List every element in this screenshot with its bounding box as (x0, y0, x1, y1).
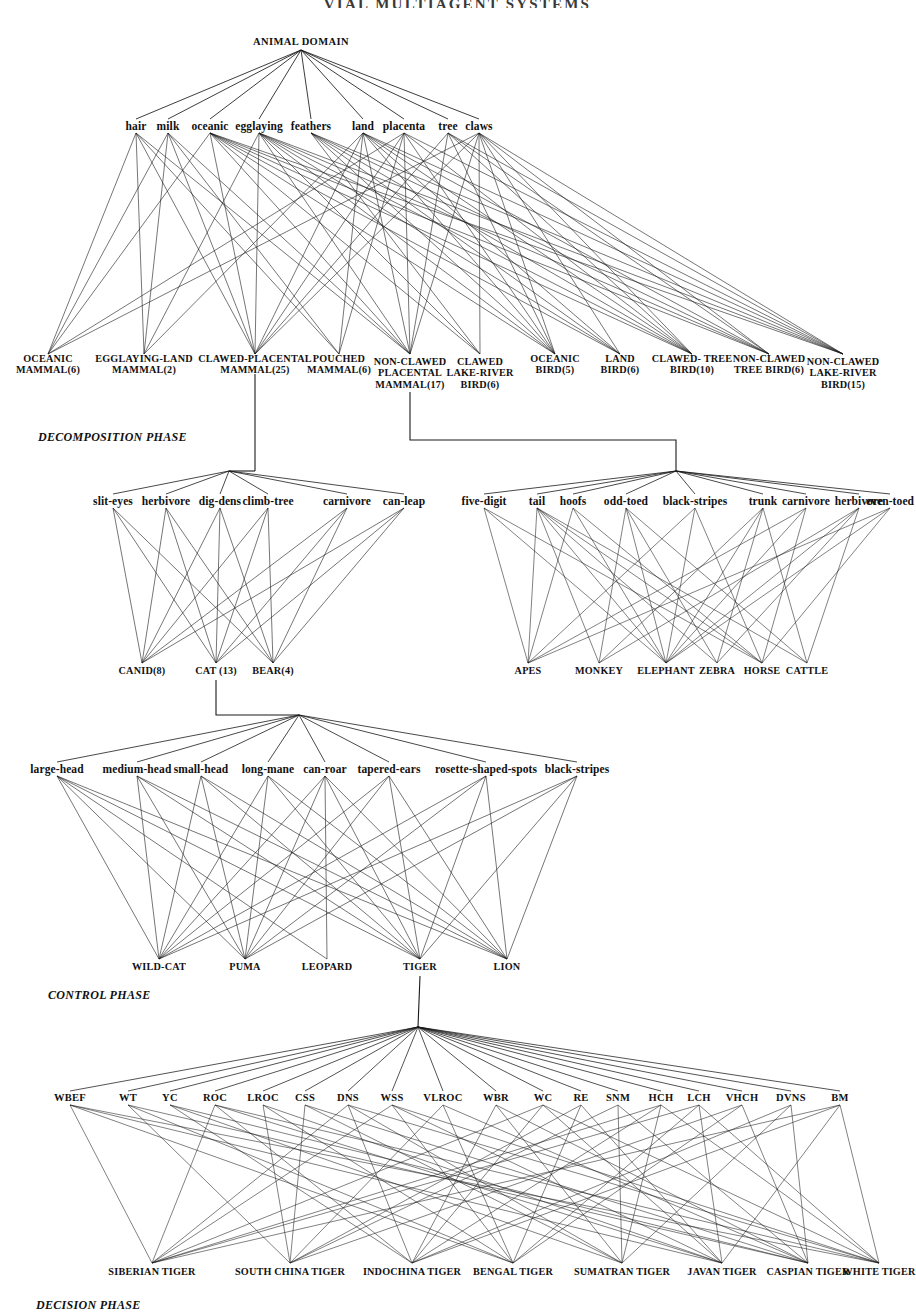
edge-hub3-small-head (201, 715, 299, 762)
phase-label-control: CONTROL PHASE (48, 988, 150, 1003)
feature-node-WT: WT (119, 1092, 137, 1104)
feature-node-hoofs: hoofs (560, 495, 587, 508)
class-node-TIGER: TIGER (403, 961, 437, 972)
edge-l5 (152, 1105, 215, 1263)
edge-l4 (507, 776, 577, 959)
edge-l2 (48, 133, 168, 354)
edge-hub2-black-stripes (676, 471, 695, 494)
edge-l4 (245, 776, 268, 959)
edge-hub3-tapered-ears (299, 715, 389, 762)
edge-l3-right (762, 508, 806, 663)
class-node-CATTLE: CATTLE (786, 665, 828, 676)
edge-l5 (742, 1105, 808, 1263)
edge-l2 (479, 133, 620, 354)
class-line: NON-CLAWED (733, 353, 806, 364)
class-node-NON-CLAWED: NON-CLAWEDTREE BIRD(6) (733, 353, 806, 376)
edge-l3-right (528, 508, 806, 663)
edge-l3-left (113, 508, 216, 663)
edge-hub4-SNM (418, 1027, 618, 1091)
edge-l3-right (484, 508, 666, 663)
feature-node-SNM: SNM (606, 1092, 630, 1104)
edge-l2 (259, 133, 769, 354)
feature-node-tree: tree (438, 120, 457, 133)
edge-root-feathers (301, 50, 311, 119)
class-node-NON-CLAWED: NON-CLAWEDPLACENTALMAMMAL(17) (374, 356, 447, 390)
edge-hub4-WSS (392, 1027, 418, 1091)
class-line: MAMMAL(6) (16, 364, 80, 375)
edge-l5 (128, 1105, 513, 1263)
edge-l5 (543, 1105, 879, 1263)
class-line: MAMMAL(2) (95, 364, 193, 375)
edge-l4 (57, 776, 245, 959)
edge-l5 (513, 1105, 699, 1263)
edge-l2 (363, 133, 620, 354)
edge-l3-left (273, 508, 404, 663)
feature-node-tapered-ears: tapered-ears (358, 763, 421, 776)
edge-l2 (363, 133, 843, 354)
edge-l4 (137, 776, 159, 959)
class-line: OCEANIC (16, 353, 80, 364)
edge-root-hair (136, 50, 301, 119)
feature-node-CSS: CSS (295, 1092, 315, 1104)
edge-l2 (255, 133, 448, 354)
feature-node-trunk: trunk (749, 495, 778, 508)
edge-hub2-odd-toed (626, 471, 676, 494)
edge-l3-right (537, 508, 717, 663)
edge-hub2-hoofs (573, 471, 676, 494)
edge-l3-right (484, 508, 528, 663)
class-node-BEAR(4): BEAR(4) (252, 665, 294, 676)
feature-node-feathers: feathers (291, 120, 331, 133)
edge-l3-right (573, 508, 666, 663)
edge-l4 (325, 776, 507, 959)
edge-l3-right (717, 508, 763, 663)
class-line: EGGLAYING-LAND (95, 353, 193, 364)
edge-l2 (210, 133, 255, 354)
class-node-CLAWED-PLACENTAL: CLAWED-PLACENTALMAMMAL(25) (198, 353, 311, 376)
edge-l2 (404, 133, 410, 354)
class-node-NON-CLAWED: NON-CLAWEDLAKE-RIVERBIRD(15) (807, 356, 880, 390)
edge-l4 (325, 776, 420, 959)
feature-node-five-digit: five-digit (461, 495, 506, 508)
class-line: MAMMAL(25) (198, 364, 311, 375)
edge-l5 (152, 1105, 543, 1263)
edge-l5 (70, 1105, 879, 1263)
edge-l4 (137, 776, 245, 959)
edge-hub2-five-digit (484, 471, 676, 494)
edge-l2 (259, 133, 692, 354)
edge-root-oceanic (210, 50, 301, 119)
edge-l3-right (626, 508, 807, 663)
feature-node-climb-tree: climb-tree (242, 495, 293, 508)
feature-node-dig-dens: dig-dens (199, 495, 241, 508)
class-node-CANID(8): CANID(8) (119, 665, 166, 676)
edge-l4 (325, 776, 327, 959)
edge-l4 (245, 776, 577, 959)
feature-node-even-toed: even-toed (866, 495, 914, 508)
edge-l2 (255, 133, 404, 354)
class-line: BIRD(6) (446, 379, 513, 390)
edge-l3-right (807, 508, 859, 663)
class-line: LAKE-RIVER (807, 367, 880, 378)
edge-l3-right (484, 508, 762, 663)
edge-l4 (389, 776, 420, 959)
class-node-HORSE: HORSE (744, 665, 781, 676)
class-node-CLAWED- TREE: CLAWED- TREEBIRD(10) (652, 353, 733, 376)
feature-node-hair: hair (126, 120, 147, 133)
edge-l2 (48, 133, 479, 354)
feature-node-LROC: LROC (247, 1092, 279, 1104)
edge-l5 (699, 1105, 722, 1263)
class-node-CLAWED: CLAWEDLAKE-RIVERBIRD(6) (446, 356, 513, 390)
root-node: ANIMAL DOMAIN (253, 36, 349, 48)
edge-root-milk (168, 50, 301, 119)
edge-l2 (448, 133, 843, 354)
class-node-BENGAL TIGER: BENGAL TIGER (473, 1266, 553, 1277)
edge-l2 (479, 133, 843, 354)
edge-l2 (48, 133, 404, 354)
edge-l2 (448, 133, 692, 354)
edge-root-placenta (301, 50, 404, 119)
edge-root-tree (301, 50, 448, 119)
feature-node-ROC: ROC (203, 1092, 227, 1104)
edge-hub4-RE (418, 1027, 581, 1091)
edge-l2 (210, 133, 769, 354)
feature-node-milk: milk (157, 120, 180, 133)
edge-l2 (311, 133, 480, 354)
